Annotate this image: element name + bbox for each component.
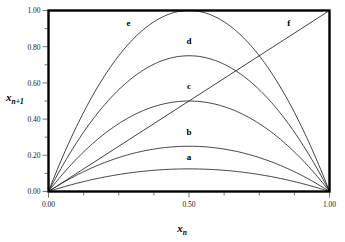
- curve-series-labels: abcdef: [127, 18, 292, 162]
- x-tick-label: 0.00: [42, 200, 55, 209]
- y-tick-label: 1.00: [27, 6, 40, 15]
- y-tick-label: 0.80: [27, 43, 40, 52]
- curve-label-e: e: [127, 18, 131, 28]
- logistic-map-figure: 0.000.200.400.600.801.00 0.000.501.00 ab…: [0, 0, 345, 242]
- curve-d: [49, 56, 330, 192]
- y-tick-label: 0.00: [27, 187, 40, 196]
- y-axis-tick-labels: 0.000.200.400.600.801.00: [27, 6, 40, 196]
- y-axis-title: xn+1: [5, 91, 24, 106]
- x-axis-title: xn: [176, 222, 187, 237]
- x-axis-tickmarks: [49, 193, 330, 198]
- curve-label-a: a: [187, 152, 192, 162]
- curve-label-d: d: [186, 36, 191, 46]
- curve-label-b: b: [186, 127, 191, 137]
- y-tick-label: 0.60: [27, 79, 40, 88]
- curve-label-f: f: [287, 18, 291, 28]
- y-tick-label: 0.40: [27, 115, 40, 124]
- x-tick-label: 1.00: [323, 200, 336, 209]
- x-tick-label: 0.50: [182, 200, 195, 209]
- y-axis-tickmarks: [43, 11, 48, 192]
- y-tick-label: 0.20: [27, 151, 40, 160]
- chart-canvas: 0.000.200.400.600.801.00 0.000.501.00 ab…: [0, 0, 345, 242]
- x-axis-tick-labels: 0.000.501.00: [42, 200, 336, 209]
- curve-a: [49, 169, 330, 192]
- curve-label-c: c: [187, 81, 191, 91]
